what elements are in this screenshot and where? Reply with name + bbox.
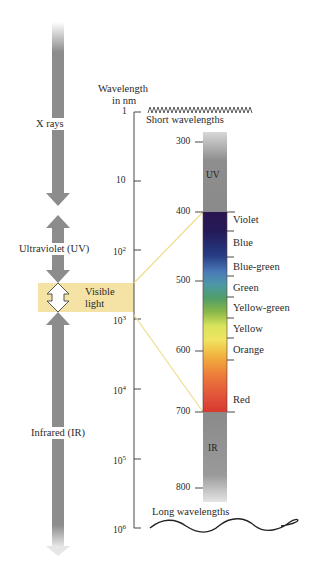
visible-label-line2: light <box>85 298 104 310</box>
visible-connector-lines <box>134 212 203 412</box>
axis-tick-10e6: 106 <box>113 522 126 536</box>
short-wave-squiggle <box>148 107 252 113</box>
axis-tick-10e5: 105 <box>113 453 126 467</box>
axis-title-line1: Wavelength <box>98 83 148 95</box>
long-wave-curve <box>150 519 298 532</box>
short-wavelengths-label: Short wavelengths <box>146 114 224 126</box>
axis-tick-10e2: 102 <box>113 244 126 258</box>
color-label-red: Red <box>233 394 250 406</box>
nm-tick-400: 400 <box>176 206 190 217</box>
diagram-graphics <box>0 0 312 567</box>
nm-tick-300: 300 <box>176 136 190 147</box>
visible-label-line1: Visible <box>85 286 115 298</box>
long-wavelengths-label: Long wavelengths <box>152 506 229 518</box>
axis-tick-10: 10 <box>116 175 126 186</box>
color-label-yellow: Yellow <box>233 323 263 335</box>
nm-tick-800: 800 <box>176 482 190 493</box>
color-label-yellow-green: Yellow-green <box>233 302 290 314</box>
color-label-green: Green <box>233 282 259 294</box>
axis-tick-10e4: 104 <box>113 383 126 397</box>
color-label-blue: Blue <box>233 237 253 249</box>
nm-tick-600: 600 <box>176 345 190 356</box>
infrared-label: Infrared (IR) <box>30 427 86 439</box>
x-rays-label: X rays <box>35 118 65 130</box>
ultraviolet-label: Ultraviolet (UV) <box>18 243 90 255</box>
spectrum-nm-ticks <box>195 142 203 488</box>
axis-tick-1: 1 <box>122 106 127 117</box>
nm-tick-700: 700 <box>176 406 190 417</box>
color-label-blue-green: Blue-green <box>233 261 280 273</box>
color-label-orange: Orange <box>233 344 264 356</box>
nm-tick-500: 500 <box>176 275 190 286</box>
uv-bar-label: UV <box>206 170 220 181</box>
axis-tick-10e3: 103 <box>113 313 126 327</box>
ir-bar-label: IR <box>208 443 218 454</box>
color-label-violet: Violet <box>233 214 259 226</box>
